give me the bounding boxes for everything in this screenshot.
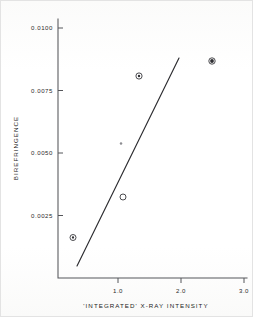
- x-axis-ticks: [118, 278, 244, 283]
- trend-line: [77, 58, 179, 266]
- data-point: [120, 142, 123, 145]
- x-tick-label-0: 1.0: [113, 287, 123, 294]
- figure-panel: 0.0100 0.0075 0.0050 0.0025 1.0 2.0 3.0 …: [0, 0, 253, 317]
- y-tick-label-2: 0.0050: [31, 149, 53, 156]
- y-tick-label-3: 0.0025: [31, 212, 53, 219]
- y-tick-label-0: 0.0100: [31, 24, 53, 31]
- x-axis-title: 'INTEGRATED' X-RAY INTENSITY: [83, 302, 208, 309]
- y-axis-title: BIREFRINGENCE: [12, 116, 19, 181]
- x-tick-label-1: 2.0: [176, 287, 186, 294]
- y-axis-ticks: [58, 28, 63, 216]
- x-tick-label-2: 3.0: [239, 287, 249, 294]
- data-point: [209, 58, 215, 64]
- data-point: [120, 194, 126, 200]
- axis-spines: [58, 19, 247, 278]
- scatter-plot: 0.0100 0.0075 0.0050 0.0025 1.0 2.0 3.0 …: [1, 1, 253, 317]
- data-point: [136, 73, 142, 79]
- data-point: [70, 235, 76, 241]
- y-tick-label-1: 0.0075: [31, 87, 53, 94]
